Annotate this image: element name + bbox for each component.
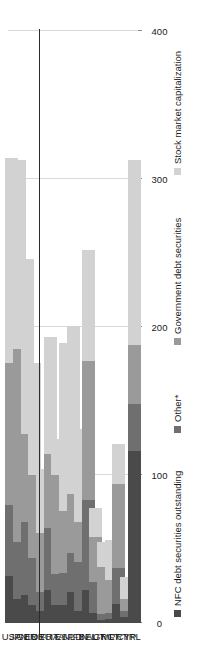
legend-item-1[interactable]: Other* — [172, 395, 183, 433]
legend-label-3: Stock market capitalization — [172, 51, 183, 164]
group-separator-line — [39, 29, 40, 637]
bar-IRL[interactable] — [128, 31, 141, 623]
legend-item-3[interactable]: Stock market capitalization — [172, 51, 183, 175]
legend-label-2: Government debt securities — [172, 218, 183, 334]
legend-swatch-icon-0 — [174, 610, 181, 617]
legend-label-0: NFC debt securities outstanding — [172, 471, 183, 606]
legend-item-2[interactable]: Government debt securities — [172, 218, 183, 345]
legend-swatch-icon-2 — [174, 338, 181, 345]
legend-label-1: Other* — [172, 395, 183, 422]
plot-area: 0100200300400USAJPNGBREURDEUFRAITAESPNLD… — [8, 31, 138, 623]
bar-segment-IRL-2[interactable] — [128, 345, 141, 404]
category-label-IRL: IRL — [117, 631, 151, 642]
bar-segment-IRL-0[interactable] — [128, 451, 141, 623]
legend-swatch-icon-1 — [174, 426, 181, 433]
chart-legend: NFC debt securities outstandingOther*Gov… — [170, 0, 198, 645]
bar-segment-IRL-3[interactable] — [128, 160, 141, 345]
chart-figure: 0100200300400USAJPNGBREURDEUFRAITAESPNLD… — [0, 0, 211, 645]
legend-swatch-icon-3 — [174, 168, 181, 175]
rotated-figure-wrapper: 0100200300400USAJPNGBREURDEUFRAITAESPNLD… — [0, 0, 211, 645]
legend-item-0[interactable]: NFC debt securities outstanding — [172, 471, 183, 617]
bar-segment-IRL-1[interactable] — [128, 404, 141, 451]
